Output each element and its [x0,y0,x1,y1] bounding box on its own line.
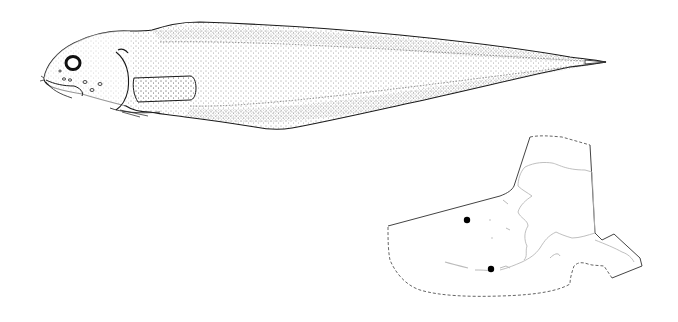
nunivak-island [506,228,510,230]
caudal-fin [585,60,606,64]
pectoral-fin [133,76,196,102]
st-lawrence-island [503,200,508,204]
aleutian-islands [445,262,468,268]
plate-svg [0,0,678,322]
small-island [491,237,493,239]
map-boundary-dashed [388,136,612,296]
fish-eye [66,57,80,70]
fish-head [44,31,133,108]
locality-dot [488,266,494,272]
fish-illustration [40,22,606,129]
snout-tips [40,76,44,81]
coastline [500,162,595,270]
species-plate [0,0,678,322]
map-boundary-solid [388,137,642,278]
distribution-map [388,136,642,296]
pribilof-island [489,219,491,221]
kodiak-area [500,266,510,268]
panhandle-coast [595,240,634,262]
kodiak-island [550,254,560,258]
locality-dot [464,217,470,223]
